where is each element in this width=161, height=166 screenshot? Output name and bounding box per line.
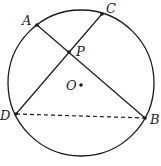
segment-cd [16,14,102,114]
circle-o [8,10,154,156]
point-a [35,23,39,27]
point-o [79,83,83,87]
point-p [67,50,71,54]
label-d: D [0,108,11,123]
label-o: O [66,78,77,93]
label-a: A [21,13,31,28]
points [14,12,147,120]
point-d [14,112,18,116]
point-c [100,12,104,16]
segments [16,14,145,118]
point-b [143,116,147,120]
segment-db [16,114,145,118]
label-p: P [75,44,85,59]
label-c: C [106,1,116,16]
geometry-figure: ACPODB [0,0,161,166]
labels: ACPODB [0,1,160,127]
label-b: B [149,112,160,127]
